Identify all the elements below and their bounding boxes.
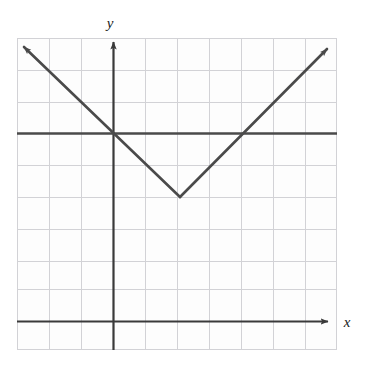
y-axis-label: y (105, 15, 114, 31)
x-axis-label: x (343, 314, 351, 330)
graph-figure: y x (0, 0, 365, 369)
coordinate-plane-svg: y x (0, 0, 365, 369)
